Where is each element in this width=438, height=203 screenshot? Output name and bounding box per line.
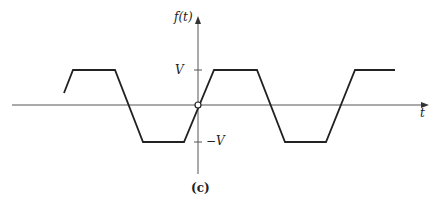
level-low-label: −V [206,135,225,147]
x-axis-label: t [420,107,425,119]
plot-canvas [0,0,438,203]
figure-caption: (c) [191,182,210,194]
level-high-label: V [175,64,184,76]
y-axis-arrow-icon [195,16,201,24]
waveform-figure: f(t) V −V t (c) [0,0,438,203]
trapezoidal-waveform [64,70,395,142]
y-axis-label: f(t) [174,11,193,23]
origin-marker [195,102,201,108]
